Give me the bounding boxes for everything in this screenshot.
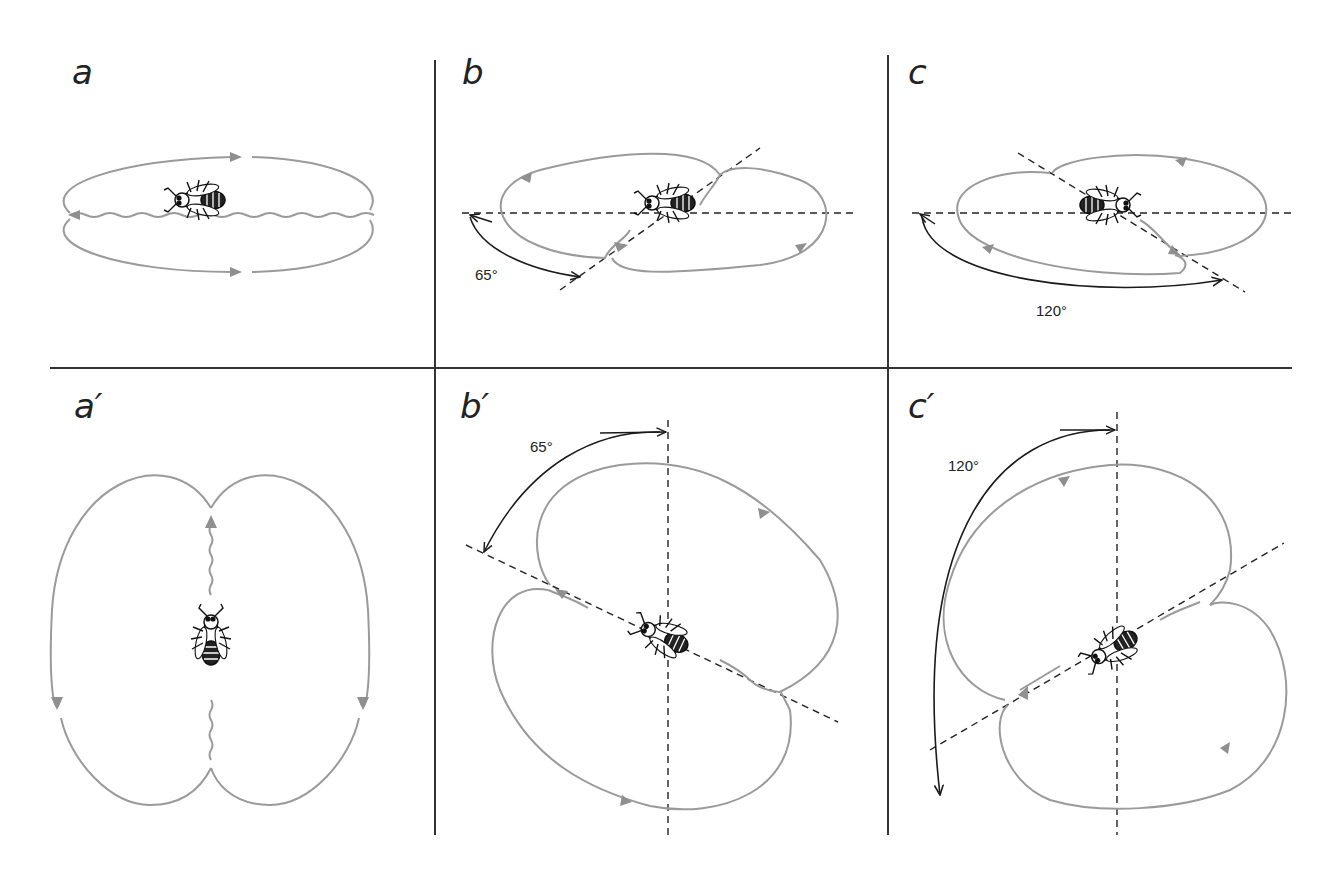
bee-icon	[623, 604, 695, 666]
waggle-dance-figure: a b c a′ b′ c′ 65° 120° 65° 120°	[0, 0, 1340, 874]
bee-icon	[1080, 185, 1141, 225]
bee-icon	[191, 604, 231, 665]
panel-a-dance	[64, 152, 374, 277]
bee-icon	[634, 183, 695, 223]
panel-c-dance	[912, 153, 1296, 292]
grid-dividers	[50, 55, 1292, 835]
panel-c-prime-dance	[930, 412, 1286, 835]
bee-icon	[1073, 618, 1146, 683]
